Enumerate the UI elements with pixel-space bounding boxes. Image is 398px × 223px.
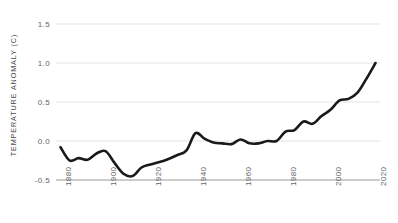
x-tick-label: 1940 <box>199 167 208 186</box>
x-tick-label: 1900 <box>109 167 118 186</box>
x-tick-label: 2020 <box>379 167 388 186</box>
temperature-anomaly-chart: TEMPERATURE ANOMALY (C) 1.51.00.50.0-0.5… <box>0 0 398 223</box>
x-axis-tick-labels: 18801900192019401960198020002020 <box>0 0 398 223</box>
x-tick-label: 1980 <box>289 167 298 186</box>
x-tick-label: 1960 <box>244 167 253 186</box>
x-tick-label: 2000 <box>334 167 343 186</box>
x-tick-label: 1880 <box>64 167 73 186</box>
x-tick-label: 1920 <box>154 167 163 186</box>
